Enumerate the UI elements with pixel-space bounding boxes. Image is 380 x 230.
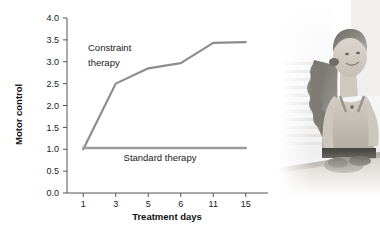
chart-canvas: 0.00.51.01.52.02.53.03.54.0 13561115 Mot…: [0, 0, 278, 230]
pendant: [350, 105, 354, 109]
eye-left: [345, 53, 349, 55]
y-tick-label: 3.5: [46, 35, 59, 45]
y-tick-label: 1.5: [46, 123, 59, 133]
y-tick-label: 3.0: [46, 57, 59, 67]
x-tick-label: 15: [241, 199, 251, 209]
y-tick-label: 0.0: [46, 188, 59, 198]
line-chart: 0.00.51.01.52.02.53.03.54.0 13561115 Mot…: [0, 0, 278, 230]
series-label-constraint-line1: Constraint: [88, 42, 132, 53]
x-tick-group: 13561115: [81, 193, 251, 209]
y-tick-label: 0.5: [46, 166, 59, 176]
y-tick-label: 2.5: [46, 79, 59, 89]
figure-panel: 0.00.51.01.52.02.53.03.54.0 13561115 Mot…: [0, 0, 380, 230]
hair-tie: [329, 58, 339, 66]
photo-canvas: [278, 0, 380, 197]
y-tick-label: 2.0: [46, 101, 59, 111]
x-tick-label: 1: [81, 199, 86, 209]
x-tick-label: 11: [209, 199, 218, 209]
bottom-fade: [278, 150, 380, 197]
x-tick-label: 6: [178, 199, 183, 209]
y-tick-group: 0.00.51.01.52.02.53.03.54.0: [46, 13, 67, 198]
series-label-constraint-line2: therapy: [88, 57, 120, 68]
x-axis-title: Treatment days: [132, 211, 202, 222]
y-tick-label: 1.0: [46, 144, 59, 154]
x-tick-label: 5: [146, 199, 151, 209]
x-tick-label: 3: [113, 199, 118, 209]
y-axis-title: Motor control: [13, 84, 24, 145]
y-tick-label: 4.0: [46, 13, 59, 23]
eye-right: [356, 52, 360, 54]
photograph: [278, 0, 380, 197]
series-label-standard: Standard therapy: [124, 152, 197, 163]
